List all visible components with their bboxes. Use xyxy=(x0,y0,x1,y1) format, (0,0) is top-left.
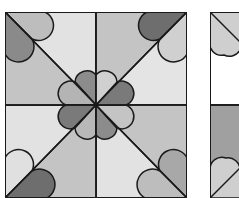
partial-quilt-block xyxy=(210,12,239,198)
main-quilt-block xyxy=(5,12,187,198)
quilt-pattern-figure xyxy=(0,0,239,198)
